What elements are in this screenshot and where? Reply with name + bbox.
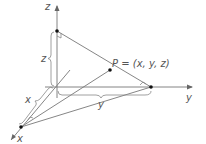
x-brace-label: x [24,94,31,105]
coordinate-diagram: z y x z x y P = (x, y, z) [0,0,206,144]
z-brace [48,32,54,86]
triangle-lines [21,31,151,127]
y-axis-label: y [185,92,193,103]
z-brace-label: z [40,53,47,64]
x-intercept-dot [19,125,23,129]
point-p-label: P = (x, y, z) [112,58,170,69]
z-axis-label: z [44,1,51,12]
x-axis-label: x [16,133,23,144]
y-axis [45,85,193,90]
y-arrow-icon [187,85,193,90]
z-axis [55,5,60,98]
z-intercept-dot [55,29,59,33]
y-brace-label: y [97,99,105,110]
x-axis [11,70,70,140]
z-arrow-icon [55,5,60,11]
y-intercept-dot [149,85,153,89]
